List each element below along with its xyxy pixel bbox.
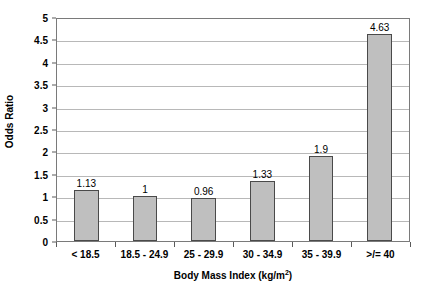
y-tick-label: 3 [42,102,48,113]
bar-value-label: 1.13 [77,178,96,189]
x-tick-label: >/= 40 [351,249,410,265]
bar-slot: 1.13 [57,19,116,241]
bar-chart: Odds Ratio 54.543.532.521.510.50 1.1310.… [0,0,426,297]
x-tick-mark [292,242,293,247]
bar-slot: 0.96 [174,19,233,241]
x-tick-mark [410,242,411,247]
x-tick-mark [56,242,57,247]
x-tick-label: < 18.5 [56,249,115,265]
y-tick-label: 4 [42,57,48,68]
y-tick-label: 2.5 [34,125,48,136]
x-tick-mark [233,242,234,247]
x-axis-title-text: Body Mass Index (kg/m [174,270,285,281]
bars-container: 1.1310.961.331.94.63 [57,19,409,241]
bar[interactable]: 1.13 [74,190,99,241]
bar-slot: 1.9 [292,19,351,241]
bar-value-label: 1.9 [314,144,328,155]
bar[interactable]: 1 [133,196,158,241]
x-tick-label: 35 - 39.9 [292,249,351,265]
bar-slot: 4.63 [350,19,409,241]
plot-area: 1.1310.961.331.94.63 [56,18,410,242]
y-tick-label: 2 [42,147,48,158]
bar[interactable]: 1.9 [309,156,334,241]
y-axis-title-text: Odds Ratio [5,94,16,147]
bar-slot: 1 [116,19,175,241]
y-tick-label: 0 [42,237,48,248]
bar-value-label: 1.33 [253,169,272,180]
x-tick-label: 18.5 - 24.9 [115,249,174,265]
bar[interactable]: 1.33 [250,181,275,241]
y-tick-label: 4.5 [34,35,48,46]
y-tick-label: 0.5 [34,214,48,225]
x-tick-label: 30 - 34.9 [233,249,292,265]
bar[interactable]: 0.96 [191,198,216,241]
x-axis-title: Body Mass Index (kg/m2) [56,269,410,281]
bar-value-label: 4.63 [370,22,389,33]
y-axis-tick-labels: 54.543.532.521.510.50 [18,18,52,242]
y-axis-title: Odds Ratio [0,0,20,242]
y-tick-label: 1 [42,192,48,203]
bar[interactable]: 4.63 [367,34,392,241]
y-tick-label: 5 [42,13,48,24]
x-axis-tick-marks [56,242,410,247]
x-tick-mark [174,242,175,247]
x-axis-title-suffix: ) [289,270,292,281]
y-tick-label: 3.5 [34,80,48,91]
bar-value-label: 0.96 [194,186,213,197]
x-axis-tick-labels: < 18.518.5 - 24.925 - 29.930 - 34.935 - … [56,249,410,265]
y-tick-label: 1.5 [34,169,48,180]
x-tick-mark [351,242,352,247]
bar-slot: 1.33 [233,19,292,241]
x-tick-mark [115,242,116,247]
x-tick-label: 25 - 29.9 [174,249,233,265]
bar-value-label: 1 [142,184,148,195]
